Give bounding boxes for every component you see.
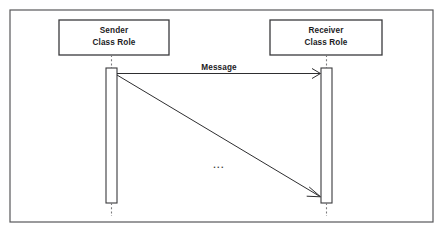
- omitted-messages-ellipsis: ...: [213, 160, 225, 170]
- receiver-role-name-line2: Class Role: [305, 38, 348, 47]
- message-arrow-horizontal-label: Message: [201, 63, 237, 72]
- sequence-diagram-figure: Sender Class Role Receiver Class Role Me…: [0, 0, 443, 232]
- receiver-role-name-line1: Receiver: [309, 26, 345, 35]
- sender-activation-bar[interactable]: [106, 68, 117, 203]
- sender-role-name-line1: Sender: [100, 26, 129, 35]
- sender-role-name-line2: Class Role: [93, 38, 136, 47]
- receiver-activation-bar[interactable]: [321, 68, 332, 203]
- sequence-diagram-canvas: Sender Class Role Receiver Class Role Me…: [0, 0, 443, 232]
